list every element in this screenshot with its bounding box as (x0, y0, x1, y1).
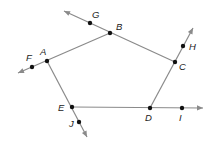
point-g (88, 21, 92, 25)
label-f: F (26, 52, 33, 63)
label-e: E (58, 102, 65, 113)
label-i: I (179, 112, 182, 123)
ray-AE-through-J (47, 61, 87, 137)
point-i (180, 106, 184, 110)
point-j (77, 120, 81, 124)
point-h (181, 44, 185, 48)
vertex-d (148, 106, 152, 110)
rays-layer (18, 11, 203, 137)
label-b: B (116, 21, 123, 32)
label-j: J (68, 118, 74, 129)
ray-DC-through-H (150, 28, 193, 108)
vertex-a (45, 59, 49, 63)
label-d: D (145, 112, 152, 123)
ray-CB-through-G (64, 11, 175, 62)
arrowhead-icon (197, 105, 203, 110)
point-f (30, 65, 34, 69)
label-c: C (179, 61, 186, 72)
vertex-e (70, 105, 74, 109)
label-g: G (92, 9, 99, 20)
label-a: A (39, 46, 46, 57)
vertex-c (173, 60, 177, 64)
vertex-b (108, 31, 112, 35)
label-h: H (189, 41, 196, 52)
pentagon-exterior-angles-diagram: ABCDEFGHIJ (0, 0, 215, 145)
